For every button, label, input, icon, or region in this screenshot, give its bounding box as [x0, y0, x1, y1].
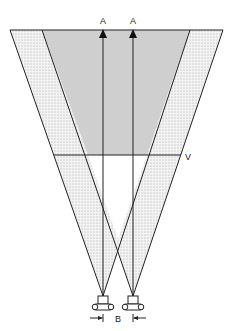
overlap-region-lower — [74, 116, 160, 155]
left-camera-icon — [92, 296, 114, 310]
target-label-right: A — [130, 16, 136, 26]
target-label-left: A — [100, 16, 106, 26]
vergence-label: V — [185, 152, 191, 162]
right-camera-icon — [122, 296, 144, 310]
stereo-diagram: V A A B — [0, 0, 232, 331]
baseline-label: B — [115, 314, 121, 324]
